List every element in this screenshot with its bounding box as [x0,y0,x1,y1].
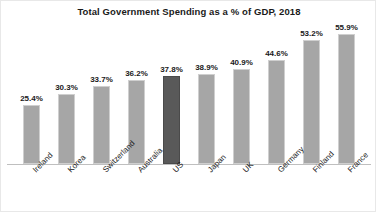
tick-slot: Ireland [14,165,49,212]
bar-value-label: 37.8% [154,65,189,74]
bar-value-label: 36.2% [119,69,154,78]
bar[interactable] [268,60,285,164]
bar-value-label: 30.3% [49,83,84,92]
tick-slot: Australia [119,165,154,212]
bar-slot: 55.9% [329,25,364,164]
bar-slot: 25.4% [14,25,49,164]
tick-slot: France [329,165,364,212]
tick-slot: Germany [259,165,294,212]
bar-slot: 33.7% [84,25,119,164]
bar-value-label: 55.9% [329,23,364,32]
chart-container: Total Government Spending as a % of GDP,… [0,0,376,212]
bar[interactable] [93,86,110,164]
bar-slot: 37.8% [154,25,189,164]
plot-area: 25.4%30.3%33.7%36.2%37.8%38.9%40.9%44.6%… [1,25,376,164]
tick-slot: Switzerland [84,165,119,212]
bar-highlighted[interactable] [163,76,180,164]
bar[interactable] [233,69,250,164]
tick-slot: US [154,165,189,212]
x-axis-tick-labels: IrelandKoreaSwitzerlandAustraliaUSJapanU… [1,165,376,212]
bar[interactable] [58,94,75,164]
bar-slot: 40.9% [224,25,259,164]
bar-slot: 44.6% [259,25,294,164]
bar-value-label: 33.7% [84,75,119,84]
bar[interactable] [198,74,215,164]
bar[interactable] [128,80,145,164]
bar-value-label: 53.2% [294,29,329,38]
bar-slot: 53.2% [294,25,329,164]
bar[interactable] [338,34,355,164]
bar-slot: 38.9% [189,25,224,164]
bar[interactable] [23,105,40,164]
bar-value-label: 44.6% [259,49,294,58]
tick-slot: Japan [189,165,224,212]
tick-slot: Finland [294,165,329,212]
bar-slot: 30.3% [49,25,84,164]
bar-value-label: 38.9% [189,63,224,72]
chart-title: Total Government Spending as a % of GDP,… [1,6,376,17]
bar[interactable] [303,40,320,164]
tick-slot: Korea [49,165,84,212]
bar-value-label: 25.4% [14,94,49,103]
bar-value-label: 40.9% [224,58,259,67]
tick-slot: UK [224,165,259,212]
